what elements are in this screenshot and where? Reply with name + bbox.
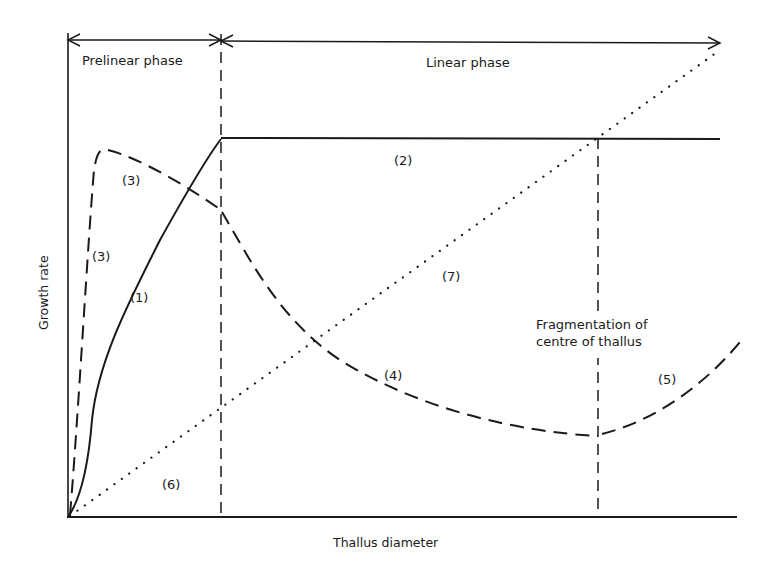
fragmentation-annotation-line2: centre of thallus — [536, 334, 642, 349]
linear-phase-label: Linear phase — [426, 55, 510, 70]
curve-label-6: (6) — [162, 477, 180, 492]
curve-label-7: (7) — [442, 269, 460, 284]
growth-rate-diagram: Prelinear phase Linear phase (2) (3) (3)… — [0, 0, 769, 562]
curve-3-dashed — [70, 150, 221, 515]
curve-label-1: (1) — [130, 290, 148, 305]
curve-label-3-left: (3) — [92, 249, 110, 264]
linear-phase-arrow — [221, 35, 720, 49]
x-axis-title: Thallus diameter — [332, 535, 439, 550]
curve-6-7-dotted — [70, 50, 720, 516]
curve-label-4: (4) — [384, 368, 402, 383]
prelinear-phase-label: Prelinear phase — [82, 53, 183, 68]
prelinear-phase-arrow — [68, 34, 221, 46]
curve-2-solid — [221, 138, 720, 139]
fragmentation-annotation-line1: Fragmentation of — [536, 317, 648, 332]
curve-label-3-top: (3) — [122, 173, 140, 188]
curve-label-5: (5) — [658, 372, 676, 387]
curve-label-2: (2) — [394, 153, 412, 168]
y-axis-title: Growth rate — [36, 255, 51, 330]
